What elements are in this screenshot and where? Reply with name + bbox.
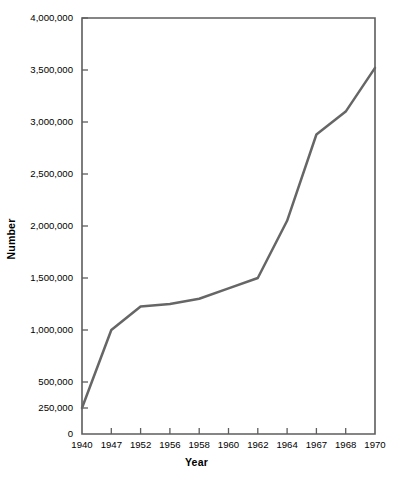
x-tick-label: 1940 (71, 439, 92, 450)
x-tick-label: 1967 (306, 439, 327, 450)
x-axis-title: Year (0, 456, 393, 468)
data-series-line (82, 68, 375, 408)
y-tick-label: 1,500,000 (30, 272, 73, 283)
axis-frame (82, 18, 375, 434)
y-axis-ticks: 0250,000500,0001,000,0001,500,0002,000,0… (30, 12, 88, 439)
y-tick-label: 2,500,000 (30, 168, 73, 179)
y-tick-label: 4,000,000 (30, 12, 73, 23)
x-tick-label: 1962 (247, 439, 268, 450)
y-tick-label: 1,000,000 (30, 324, 73, 335)
x-tick-label: 1970 (364, 439, 385, 450)
line-chart: Number 0250,000500,0001,000,0001,500,000… (0, 0, 393, 478)
x-axis-title-label: Year (185, 456, 208, 468)
y-tick-label: 0 (68, 428, 73, 439)
x-tick-label: 1960 (218, 439, 239, 450)
y-tick-label: 3,000,000 (30, 116, 73, 127)
x-tick-label: 1958 (189, 439, 210, 450)
y-tick-label: 2,000,000 (30, 220, 73, 231)
x-tick-label: 1968 (335, 439, 356, 450)
x-axis-ticks: 1940194719521956195819601962196419671968… (71, 428, 385, 450)
chart-plot-area: 0250,000500,0001,000,0001,500,0002,000,0… (0, 0, 393, 478)
x-tick-label: 1964 (276, 439, 298, 450)
y-tick-label: 250,000 (38, 402, 73, 413)
y-tick-label: 3,500,000 (30, 64, 73, 75)
y-tick-label: 500,000 (38, 376, 73, 387)
x-tick-label: 1952 (130, 439, 151, 450)
x-tick-label: 1947 (101, 439, 122, 450)
x-tick-label: 1956 (159, 439, 180, 450)
